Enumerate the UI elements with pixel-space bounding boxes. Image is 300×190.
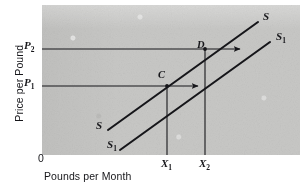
curve-label-s-upper-base: S [263,10,269,22]
curve-label-s1-upper-sub: 1 [282,36,286,45]
quantity-tick-x1: X1 [161,158,172,172]
origin-label: 0 [38,153,44,164]
price-tick-p1-base: P [24,76,31,88]
supply-curve-s [108,22,258,130]
figure-linework [0,0,300,190]
x-axis-title: Pounds per Month [44,171,131,182]
point-c-marker [165,84,169,88]
quantity-tick-x2: X2 [199,158,210,172]
point-label-d: D [197,40,205,51]
supply-curve-figure: Price per Pound Pounds per Month 0 P2 P1… [0,0,300,190]
y-axis-title: Price per Pound [14,36,25,130]
curve-label-s-upper: S [263,11,269,25]
curve-label-s1-upper: S1 [276,31,286,45]
supply-curve-s1 [120,42,270,150]
price-tick-p2-base: P [24,39,31,51]
curve-label-s-lower-base: S [96,119,102,131]
curve-label-s-lower: S [96,120,102,134]
price-tick-p2: P2 [24,40,34,54]
price-tick-p1: P1 [24,77,34,91]
curve-label-s1-lower-sub: 1 [113,144,117,153]
price-tick-p2-sub: 2 [31,45,35,54]
price-tick-p1-sub: 1 [31,82,35,91]
curve-label-s1-lower: S1 [107,139,117,153]
quantity-tick-x1-sub: 1 [168,163,172,172]
quantity-tick-x2-sub: 2 [206,163,210,172]
point-label-c: C [158,70,165,81]
